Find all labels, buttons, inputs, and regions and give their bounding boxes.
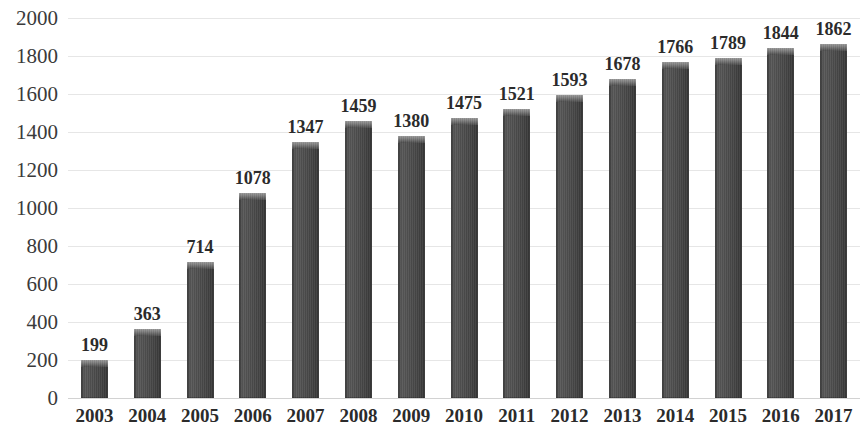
y-axis-tick-label: 1400 bbox=[0, 122, 58, 143]
bar-column[interactable]: 1593 bbox=[556, 18, 583, 398]
x-axis-tick-label: 2011 bbox=[490, 406, 543, 425]
bar-value-label: 1347 bbox=[278, 118, 333, 136]
x-axis-tick-label: 2014 bbox=[649, 406, 702, 425]
bar-column[interactable]: 199 bbox=[81, 18, 108, 398]
bar-value-label: 1380 bbox=[384, 112, 439, 130]
x-axis-tick-label: 2010 bbox=[438, 406, 491, 425]
plot-area: 1993637141078134714591380147515211593167… bbox=[68, 18, 860, 398]
x-axis-tick-label: 2006 bbox=[226, 406, 279, 425]
bar[interactable] bbox=[715, 58, 742, 398]
bar-column[interactable]: 1459 bbox=[345, 18, 372, 398]
x-axis-tick-label: 2016 bbox=[754, 406, 807, 425]
bar-value-label: 1678 bbox=[595, 55, 650, 73]
bar[interactable] bbox=[503, 109, 530, 398]
bar-value-label: 1862 bbox=[806, 20, 861, 38]
x-axis-tick-label: 2013 bbox=[596, 406, 649, 425]
bar-value-label: 1789 bbox=[701, 34, 756, 52]
x-axis-tick-label: 2009 bbox=[385, 406, 438, 425]
y-axis-tick-label: 1600 bbox=[0, 84, 58, 105]
bar-column[interactable]: 363 bbox=[134, 18, 161, 398]
bar[interactable] bbox=[187, 262, 214, 398]
bar-column[interactable]: 1789 bbox=[715, 18, 742, 398]
bar-value-label: 1844 bbox=[753, 24, 808, 42]
bar-column[interactable]: 1766 bbox=[662, 18, 689, 398]
bar-value-label: 199 bbox=[67, 336, 122, 354]
x-axis-tick-label: 2015 bbox=[702, 406, 755, 425]
bar-value-label: 1475 bbox=[437, 94, 492, 112]
bar[interactable] bbox=[398, 136, 425, 398]
x-axis-tick-label: 2008 bbox=[332, 406, 385, 425]
bar-value-label: 1766 bbox=[648, 38, 703, 56]
x-axis-tick-label: 2003 bbox=[68, 406, 121, 425]
bar-column[interactable]: 1475 bbox=[451, 18, 478, 398]
bar[interactable] bbox=[345, 121, 372, 398]
bar-value-label: 1459 bbox=[331, 97, 386, 115]
y-axis-tick-label: 2000 bbox=[0, 8, 58, 29]
bar-value-label: 1593 bbox=[542, 71, 597, 89]
bar[interactable] bbox=[820, 44, 847, 398]
y-axis-tick-label: 1800 bbox=[0, 46, 58, 67]
y-axis-tick-label: 200 bbox=[0, 350, 58, 371]
y-axis-tick-label: 800 bbox=[0, 236, 58, 257]
bar-column[interactable]: 714 bbox=[187, 18, 214, 398]
bar-column[interactable]: 1380 bbox=[398, 18, 425, 398]
bar[interactable] bbox=[239, 193, 266, 398]
bar-value-label: 1078 bbox=[225, 169, 280, 187]
bar-value-label: 714 bbox=[173, 238, 228, 256]
bar[interactable] bbox=[81, 360, 108, 398]
y-axis-tick-label: 600 bbox=[0, 274, 58, 295]
x-axis-tick-label: 2005 bbox=[174, 406, 227, 425]
bar-column[interactable]: 1347 bbox=[292, 18, 319, 398]
bar[interactable] bbox=[292, 142, 319, 398]
bar[interactable] bbox=[609, 79, 636, 398]
y-axis-tick-label: 0 bbox=[0, 388, 58, 409]
bar-column[interactable]: 1678 bbox=[609, 18, 636, 398]
x-axis-tick-label: 2004 bbox=[121, 406, 174, 425]
bar-value-label: 1521 bbox=[489, 85, 544, 103]
bar[interactable] bbox=[662, 62, 689, 398]
bar-value-label: 363 bbox=[120, 305, 175, 323]
y-axis-tick-label: 1200 bbox=[0, 160, 58, 181]
bar[interactable] bbox=[556, 95, 583, 398]
bar-column[interactable]: 1078 bbox=[239, 18, 266, 398]
y-axis-tick-label: 400 bbox=[0, 312, 58, 333]
bar[interactable] bbox=[451, 118, 478, 398]
bar-chart: 0200400600800100012001400160018002000 19… bbox=[0, 0, 865, 433]
bar-column[interactable]: 1862 bbox=[820, 18, 847, 398]
bar[interactable] bbox=[134, 329, 161, 398]
bar-column[interactable]: 1521 bbox=[503, 18, 530, 398]
y-axis-tick-label: 1000 bbox=[0, 198, 58, 219]
axis-baseline bbox=[68, 398, 860, 399]
bar[interactable] bbox=[767, 48, 794, 398]
x-axis-tick-label: 2007 bbox=[279, 406, 332, 425]
x-axis-tick-label: 2012 bbox=[543, 406, 596, 425]
x-axis-tick-label: 2017 bbox=[807, 406, 860, 425]
bar-column[interactable]: 1844 bbox=[767, 18, 794, 398]
